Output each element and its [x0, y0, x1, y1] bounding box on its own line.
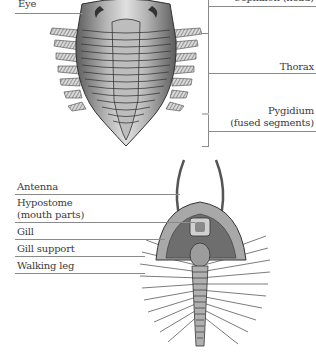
label-hypostome-note: (mouth parts)	[17, 209, 84, 221]
leader-line-hypostome	[15, 222, 195, 223]
label-thorax: Thorax	[280, 61, 314, 73]
bracket-tick-pygidium-start	[202, 113, 209, 115]
dorsal-trilobite	[50, 0, 202, 146]
label-gill-support: Gill support	[17, 243, 75, 255]
label-gill: Gill	[17, 226, 34, 238]
label-eye: Eye	[18, 0, 36, 10]
leader-line-eye	[15, 13, 83, 14]
leader-line-pygidium	[208, 131, 316, 132]
leader-line-gill-support	[15, 256, 145, 257]
label-antenna: Antenna	[17, 181, 58, 193]
leader-line-antenna	[15, 194, 180, 195]
ventral-trilobite	[140, 160, 270, 346]
leader-line-cephalon	[208, 6, 316, 7]
label-walking-leg: Walking leg	[17, 260, 74, 272]
bracket-tick-thorax-start	[202, 33, 209, 34]
leader-line-gill	[15, 239, 165, 240]
leader-line-thorax	[208, 73, 316, 74]
leader-line-walking-leg	[15, 273, 145, 274]
label-pygidium-note: (fused segments)	[230, 117, 314, 129]
label-pygidium: Pygidium	[268, 105, 314, 117]
label-hypostome: Hypostome	[17, 197, 73, 209]
bracket-tick-end	[202, 146, 209, 147]
trilobite-illustrations	[0, 0, 316, 352]
label-cephalon: Cephalon (head)	[233, 0, 314, 4]
